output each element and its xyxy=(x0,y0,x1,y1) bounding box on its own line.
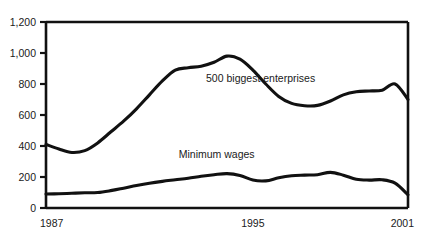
y-axis-tick-label: 600 xyxy=(18,109,36,121)
line-chart: 02004006008001,0001,200 198719952001 500… xyxy=(0,0,423,245)
series-annotation-label: Minimum wages xyxy=(179,148,255,160)
y-axis-tick-label: 400 xyxy=(18,140,36,152)
x-axis-tick-label: 1995 xyxy=(241,217,265,229)
y-axis-tick-label: 0 xyxy=(30,202,36,214)
x-axis-tick-label: 2001 xyxy=(391,217,415,229)
chart-canvas: 02004006008001,0001,200 198719952001 500… xyxy=(0,0,423,245)
series-annotation-label: 500 biggest enterprises xyxy=(206,72,315,84)
y-axis-tick-label: 200 xyxy=(18,171,36,183)
y-axis-tick-label: 1,000 xyxy=(10,47,36,59)
x-axis-tick-label: 1987 xyxy=(40,217,64,229)
y-axis-tick-label: 800 xyxy=(18,78,36,90)
y-axis-tick-label: 1,200 xyxy=(10,16,36,28)
